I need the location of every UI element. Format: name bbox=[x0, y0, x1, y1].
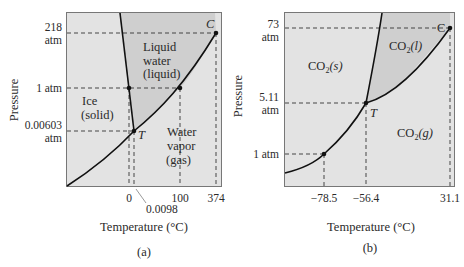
panel-a-x-axis-title: Temperature (°C) bbox=[100, 220, 188, 234]
panel-b-x-axis-title: Temperature (°C) bbox=[327, 220, 415, 234]
panel-a-xtick-0: 0 bbox=[126, 192, 132, 204]
panel-b-triple-label: T bbox=[370, 106, 378, 120]
panel-b-xtick-311: 31.1 bbox=[440, 192, 460, 204]
panel-a-ytick-triple-unit: atm bbox=[45, 132, 62, 144]
panel-b-region-solid-label: CO2(s) bbox=[308, 59, 343, 75]
panel-a-ytick-218: 218 bbox=[45, 21, 63, 33]
panel-a-triple-leader-line bbox=[136, 189, 146, 203]
svg-text:vapor: vapor bbox=[167, 139, 196, 153]
panel-b-sublimation-point bbox=[322, 152, 327, 157]
panel-b-triple-point bbox=[364, 101, 369, 106]
panel-b-xtick-564: −56.4 bbox=[353, 192, 380, 204]
panel-b-ytick-511: 5.11 bbox=[259, 91, 279, 103]
panel-a-critical-label: C bbox=[206, 17, 215, 31]
panel-a-water-phase-diagram: C T Liquid water (liquid) Ice (solid) Wa… bbox=[7, 13, 225, 260]
panel-b-ytick-73-unit: atm bbox=[262, 31, 279, 43]
panel-b-xtick-785: −78.5 bbox=[311, 192, 338, 204]
panel-a-melting-point bbox=[127, 86, 132, 91]
panel-b-caption: (b) bbox=[363, 241, 378, 255]
panel-b-critical-point bbox=[448, 26, 453, 31]
panel-b-ytick-73: 73 bbox=[268, 18, 280, 30]
panel-a-triple-point bbox=[132, 129, 137, 134]
panel-a-ytick-218-unit: atm bbox=[45, 34, 62, 46]
panel-a-xtick-100: 100 bbox=[171, 192, 189, 204]
panel-a-ytick-triple: 0.00603 bbox=[25, 119, 63, 131]
svg-text:(liquid): (liquid) bbox=[143, 67, 181, 81]
panel-b-region-liquid-label: CO2(l) bbox=[389, 39, 422, 55]
svg-text:Water: Water bbox=[167, 125, 197, 139]
panel-a-critical-point bbox=[214, 31, 219, 36]
panel-a-xtick-374: 374 bbox=[207, 192, 225, 204]
panel-b-y-axis-title: Pressure bbox=[231, 74, 245, 117]
svg-text:(gas): (gas) bbox=[166, 153, 191, 167]
panel-b-critical-label: C bbox=[437, 21, 445, 35]
panel-b-ytick-1atm: 1 atm bbox=[253, 148, 279, 160]
svg-text:(solid): (solid) bbox=[81, 108, 114, 122]
panel-a-y-axis-title: Pressure bbox=[7, 78, 21, 121]
panel-a-ytick-1atm: 1 atm bbox=[36, 82, 62, 94]
panel-a-caption: (a) bbox=[137, 245, 151, 259]
svg-text:Ice: Ice bbox=[82, 94, 98, 108]
svg-text:Liquid: Liquid bbox=[143, 40, 177, 54]
panel-b-co2-phase-diagram: C T CO2(s) CO2(l) CO2(g) 73 atm 5.11 atm… bbox=[231, 13, 460, 256]
panel-b-ytick-511-unit: atm bbox=[262, 104, 279, 116]
panel-a-triple-label: T bbox=[138, 128, 146, 142]
panel-a-xtick-triple: 0.0098 bbox=[146, 203, 178, 215]
svg-text:water: water bbox=[143, 54, 172, 68]
panel-a-boiling-point bbox=[178, 86, 183, 91]
